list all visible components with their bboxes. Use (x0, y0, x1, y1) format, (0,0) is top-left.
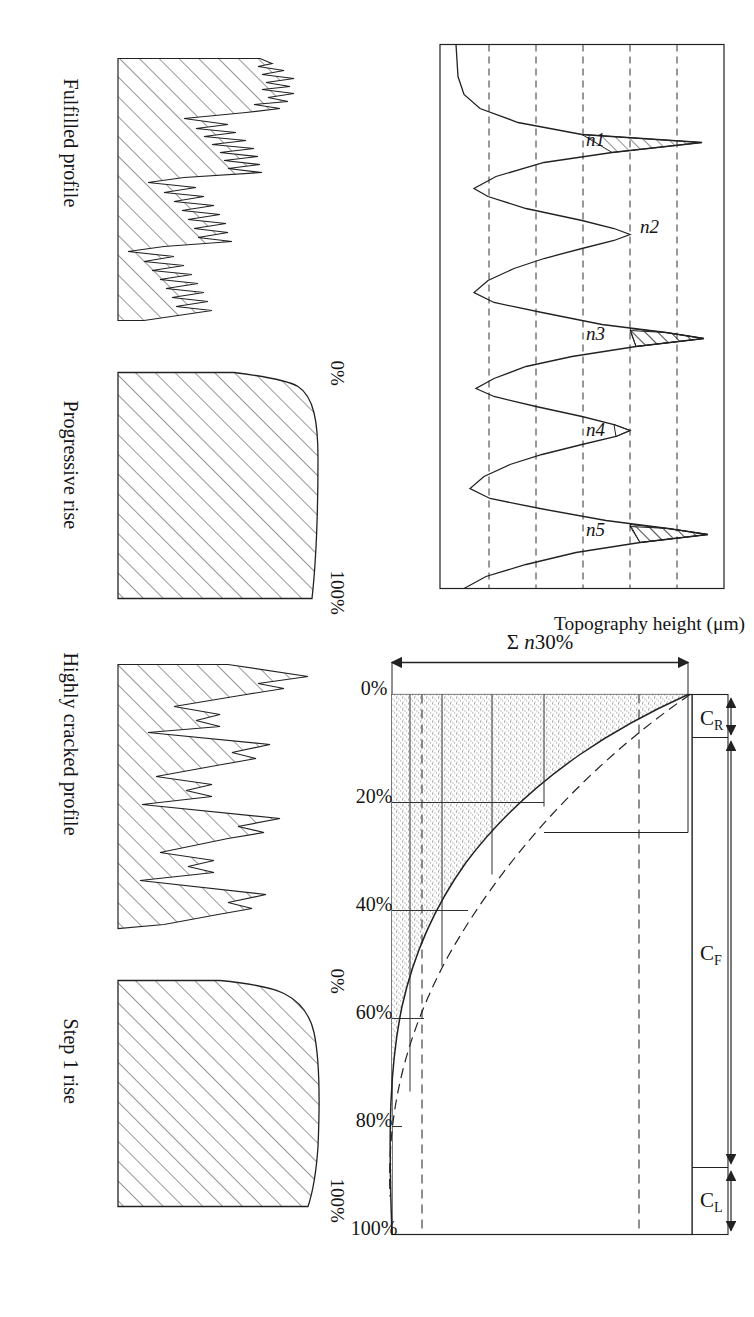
tick-label-40: 40% (356, 892, 393, 914)
thumb-label-fulfilled-profile: Fulfilled profile (59, 78, 82, 207)
profile-frame (440, 44, 724, 588)
y-axis-label: Topography height (μm) (554, 612, 745, 634)
progressive-rise-plot (104, 362, 324, 612)
zone-labels: CR CF CL (700, 705, 724, 1214)
zone-label-cf: CF (700, 940, 722, 967)
peak-label-n3: n3 (586, 322, 605, 343)
zone-label-cl: CL (700, 1187, 723, 1214)
highly-cracked-profile-plot (104, 652, 324, 942)
tick-label-20: 20% (356, 784, 393, 806)
peak-label-n2: n2 (640, 215, 660, 236)
tick-step1-100: 100% (326, 1178, 348, 1222)
thumb-step-1-rise (104, 970, 324, 1220)
profile-panel: n1 n2 n3 n4 n5 (432, 36, 732, 596)
tick-label-100: 100% (351, 1216, 398, 1238)
tick-label-60: 60% (356, 1000, 393, 1022)
tick-label-80: 80% (356, 1108, 393, 1130)
thumb-label-highly-cracked-profile: Highly cracked profile (59, 652, 82, 835)
thumb-fulfilled-profile (104, 44, 324, 334)
bearing-area-plot: CR CF CL Σ n30% 0% 20% 40 (368, 636, 740, 1276)
progressive-rise-shape (118, 372, 318, 598)
fulfilled-profile-shape (118, 58, 294, 320)
peak-label-n5: n5 (586, 518, 605, 539)
thumb-label-progressive-rise: Progressive rise (59, 400, 82, 529)
profile-plot: n1 n2 n3 n4 n5 (432, 36, 732, 596)
tick-label-0: 0% (361, 676, 388, 698)
rotated-figure-canvas: n1 n2 n3 n4 n5 (0, 0, 754, 1317)
peak-label-n4: n4 (586, 418, 606, 439)
highly-cracked-profile-shape (118, 664, 308, 928)
tick-progressive-100: 100% (326, 570, 348, 614)
bearing-area-panel: CR CF CL Σ n30% 0% 20% 40 (368, 636, 740, 1276)
zone-label-cr: CR (700, 705, 724, 732)
step-1-rise-shape (118, 980, 319, 1206)
peak-label-n1: n1 (586, 128, 605, 149)
thumb-label-step-1-rise: Step 1 rise (59, 1018, 82, 1104)
tick-progressive-0: 0% (326, 360, 348, 385)
fulfilled-profile-plot (104, 44, 324, 334)
figure-page: n1 n2 n3 n4 n5 (0, 0, 754, 1317)
step-1-rise-plot (104, 970, 324, 1220)
thumb-highly-cracked-profile (104, 652, 324, 942)
tick-step1-0: 0% (326, 968, 348, 993)
thumb-progressive-rise (104, 362, 324, 612)
